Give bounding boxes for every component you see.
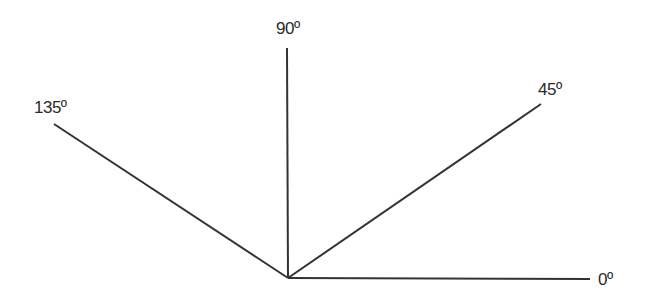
ray-135-degrees xyxy=(54,124,288,278)
ray-0-degrees xyxy=(288,278,590,279)
label-135-degrees: 135º xyxy=(34,99,67,116)
label-90-degrees: 90º xyxy=(276,20,300,37)
ray-90-degrees xyxy=(287,48,288,278)
label-0-degrees: 0º xyxy=(598,271,613,288)
ray-45-degrees xyxy=(288,104,541,278)
rays-svg xyxy=(0,0,647,303)
label-45-degrees: 45º xyxy=(538,81,562,98)
angle-diagram: 90º 135º 45º 0º xyxy=(0,0,647,303)
